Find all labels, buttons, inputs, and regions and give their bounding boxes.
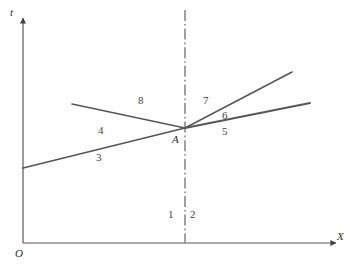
coordinate-diagram: t X O A 1 2 3 4 5 6 7 8	[0, 0, 355, 273]
region-label-3: 3	[96, 152, 102, 163]
point-label-a: A	[172, 134, 179, 145]
region-label-8: 8	[138, 95, 144, 106]
origin-label: O	[15, 248, 23, 259]
region-label-6: 6	[222, 110, 228, 121]
region-label-5: 5	[222, 126, 228, 137]
ray-4	[72, 104, 185, 128]
x-axis-label: X	[337, 231, 344, 242]
region-label-4: 4	[98, 125, 104, 136]
ray-5	[185, 103, 310, 128]
region-label-2: 2	[190, 209, 196, 220]
ray-7	[185, 72, 292, 128]
ray-3	[23, 128, 185, 168]
y-axis-label: t	[10, 7, 13, 18]
region-label-1: 1	[168, 209, 174, 220]
region-label-7: 7	[203, 95, 209, 106]
